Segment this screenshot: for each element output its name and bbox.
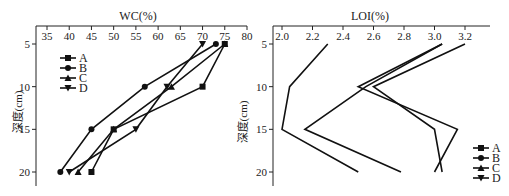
series-D — [374, 44, 466, 172]
wc-legend: ABCD — [60, 51, 88, 95]
y-tick-label: 20 — [19, 166, 31, 178]
x-tick-label: 50 — [108, 30, 120, 42]
x-tick-label: 40 — [64, 30, 76, 42]
series-line — [374, 44, 466, 172]
wc-chart: WC(%) 35404550556065707580 5101520 深度(cm… — [11, 9, 253, 186]
series-A — [88, 41, 227, 175]
loi-chart: LOI(%) 2.02.22.42.62.83.03.2 5101520 深度(… — [236, 9, 501, 186]
y-tick-label: 10 — [256, 81, 268, 93]
x-tick-label: 3.2 — [458, 30, 472, 42]
x-tick-label: 70 — [197, 30, 209, 42]
x-tick-label: 60 — [153, 30, 165, 42]
loi-title: LOI(%) — [351, 9, 389, 23]
x-tick-label: 45 — [86, 30, 98, 42]
circle-marker-icon — [478, 155, 484, 161]
figure: WC(%) 35404550556065707580 5101520 深度(cm… — [0, 0, 509, 196]
series-A — [282, 44, 358, 172]
y-tick-label: 15 — [256, 123, 268, 135]
loi-y-ticks: 5101520 — [256, 38, 273, 178]
square-marker-icon — [478, 145, 484, 151]
circle-marker-icon — [57, 169, 63, 175]
square-marker-icon — [65, 55, 71, 61]
x-tick-label: 35 — [42, 30, 54, 42]
circle-marker-icon — [88, 126, 94, 132]
x-tick-label: 3.0 — [428, 30, 442, 42]
wc-x-ticks: 35404550556065707580 — [42, 26, 254, 42]
circle-marker-icon — [142, 84, 148, 90]
y-tick-label: 5 — [262, 38, 268, 50]
legend-item-D: D — [60, 81, 88, 95]
y-tick-label: 5 — [25, 38, 31, 50]
x-tick-label: 2.6 — [367, 30, 381, 42]
x-tick-label: 2.8 — [397, 30, 411, 42]
series-line — [91, 44, 224, 172]
triangle-down-marker-icon — [66, 169, 73, 176]
loi-x-ticks: 2.02.22.42.62.83.03.2 — [275, 26, 472, 42]
wc-y-label: 深度(cm) — [11, 90, 25, 133]
circle-marker-icon — [213, 41, 219, 47]
series-line — [282, 44, 358, 172]
legend-label: D — [492, 171, 501, 185]
x-tick-label: 65 — [175, 30, 187, 42]
triangle-down-marker-icon — [132, 126, 139, 132]
legend-label: D — [79, 81, 88, 95]
x-tick-label: 80 — [242, 30, 254, 42]
x-tick-label: 75 — [219, 30, 231, 42]
loi-y-label: 深度(cm) — [236, 100, 250, 143]
x-tick-label: 2.0 — [275, 30, 289, 42]
x-tick-label: 2.4 — [336, 30, 350, 42]
x-tick-label: 55 — [130, 30, 142, 42]
circle-marker-icon — [65, 65, 71, 71]
loi-series — [282, 44, 465, 172]
loi-legend: ABCD — [473, 141, 501, 185]
legend-item-D: D — [473, 171, 501, 185]
x-tick-label: 2.2 — [306, 30, 320, 42]
wc-title: WC(%) — [119, 9, 156, 23]
y-tick-label: 20 — [256, 166, 268, 178]
square-marker-icon — [88, 169, 94, 175]
square-marker-icon — [200, 84, 206, 90]
